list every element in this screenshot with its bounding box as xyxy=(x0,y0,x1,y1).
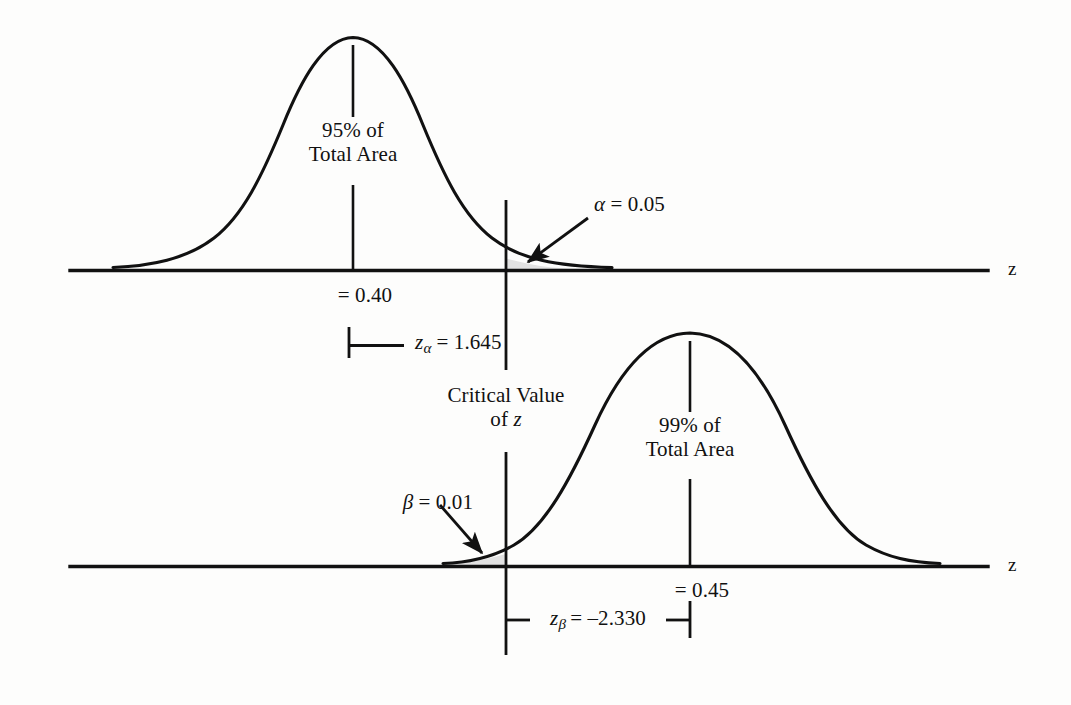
top-area-label: 95% of Total Area xyxy=(309,118,398,167)
beta-equals-text: = xyxy=(413,490,436,514)
beta-label: β = 0.01 xyxy=(403,490,473,514)
top-area-label-line1: 95% of xyxy=(309,118,398,142)
bottom-area-label-line2: Total Area xyxy=(646,437,735,461)
critical-value-note: Critical Value of z xyxy=(447,383,564,432)
critical-value-note-line1: Critical Value xyxy=(447,383,564,407)
distribution-diagram-svg xyxy=(0,0,1071,705)
bottom-area-label-line1: 99% of xyxy=(646,413,735,437)
critical-value-note-of: of xyxy=(490,407,513,431)
beta-value: 0.01 xyxy=(436,490,473,514)
top-mean-value-label: = 0.40 xyxy=(338,283,392,307)
top-area-label-line2: Total Area xyxy=(309,142,398,166)
alpha-arrow xyxy=(528,218,588,262)
bottom-axis-z-label: z xyxy=(1008,554,1017,576)
alpha-value: 0.05 xyxy=(628,192,665,216)
critical-value-note-z: z xyxy=(513,407,521,431)
beta-symbol: β xyxy=(403,490,414,514)
top-axis-z-label: z xyxy=(1008,258,1017,280)
z-alpha-equals: = 1.645 xyxy=(432,330,502,354)
bottom-distribution-group xyxy=(70,333,988,655)
z-beta-equals: = –2.330 xyxy=(566,606,646,630)
top-distribution-group xyxy=(70,38,988,371)
alpha-symbol: α xyxy=(594,192,605,216)
z-alpha-subscript: α xyxy=(423,340,431,356)
bottom-area-label: 99% of Total Area xyxy=(646,413,735,462)
statistics-figure: 95% of Total Area = 0.40 α = 0.05 zα= 1.… xyxy=(0,0,1071,705)
alpha-equals-text: = xyxy=(605,192,628,216)
z-alpha-label: zα= 1.645 xyxy=(415,330,502,358)
bottom-mean-value-label: = 0.45 xyxy=(675,578,729,602)
z-beta-subscript: β xyxy=(558,616,566,632)
critical-value-note-line2: of z xyxy=(447,407,564,431)
alpha-label: α = 0.05 xyxy=(594,192,665,216)
z-beta-label: zβ= –2.330 xyxy=(550,606,646,634)
